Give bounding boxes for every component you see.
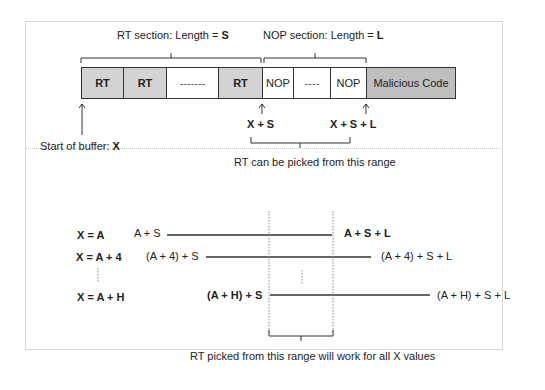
rt-section-brace: [81, 58, 261, 63]
diagram-lines: [0, 0, 545, 390]
bottom-range-brace: [269, 330, 333, 336]
nop-section-brace: [264, 58, 366, 63]
top-range-brace: [251, 137, 350, 143]
